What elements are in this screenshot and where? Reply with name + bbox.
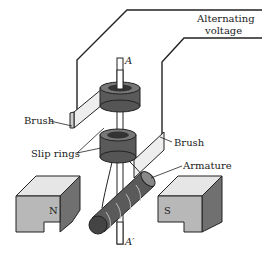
north-magnet [16, 176, 80, 232]
leader-slip-rings-2 [77, 148, 101, 153]
label-north: N [49, 205, 58, 216]
inner-wire [162, 38, 262, 150]
label-armature: Armature [183, 160, 232, 171]
lower-slip-ring [100, 129, 136, 163]
label-voltage: voltage [205, 25, 242, 36]
label-slip-rings: Slip rings [31, 148, 80, 159]
generator-diagram [0, 0, 278, 256]
label-south: S [164, 205, 171, 216]
label-brush-left: Brush [24, 115, 54, 126]
label-axis-a: A [125, 55, 132, 66]
upper-slip-ring [100, 70, 140, 112]
label-brush-right: Brush [174, 137, 204, 148]
label-alternating: Alternating [197, 13, 255, 24]
label-axis-a-prime: A′ [125, 236, 135, 247]
south-magnet [158, 176, 222, 232]
